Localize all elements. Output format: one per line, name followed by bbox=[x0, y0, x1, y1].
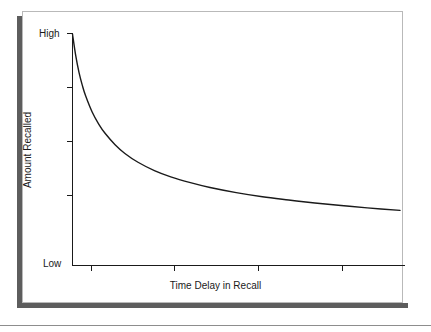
forgetting-curve-chart: High Low Time Delay in Recall Amount Rec… bbox=[0, 0, 431, 332]
y-axis-min-label: Low bbox=[43, 259, 61, 269]
x-axis-title: Time Delay in Recall bbox=[0, 281, 431, 291]
bottom-separator-rule bbox=[0, 325, 431, 326]
forgetting-curve-line bbox=[73, 34, 401, 210]
y-axis-ticks bbox=[67, 88, 72, 196]
y-axis-max-label: High bbox=[39, 29, 60, 39]
y-axis-title: Amount Recalled bbox=[23, 100, 33, 200]
